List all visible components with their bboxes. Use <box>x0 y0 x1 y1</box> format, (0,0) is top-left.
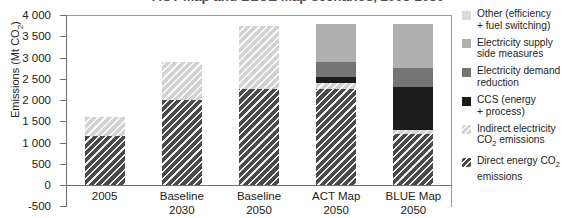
bar-segment-direct <box>393 134 433 185</box>
bar-segment-supply <box>316 24 356 62</box>
legend-swatch-icon <box>462 158 471 167</box>
bar-segment-indirect <box>85 117 125 136</box>
y-axis-tick-label: 1 500 <box>5 115 51 127</box>
x-axis-label-line: ACT Map <box>293 190 379 204</box>
y-axis-tick-label: -500 <box>5 200 51 212</box>
bar-segment-indirect <box>162 62 202 100</box>
y-axis-tick-label: 3 500 <box>5 30 51 42</box>
legend-label: Indirect electricityCO2 emissions <box>477 123 556 150</box>
bar-segment-ccs <box>316 77 356 83</box>
chart-title: ACT Map and BLUE Map scenarios, 2005-205… <box>148 0 448 4</box>
legend-item[interactable]: Direct energy CO2emissions <box>462 155 569 182</box>
legend-label: Direct energy CO2emissions <box>477 155 560 182</box>
y-axis-tick: 1 000 <box>60 143 66 144</box>
legend-item[interactable]: Other (efficiency+ fuel switching) <box>462 8 569 31</box>
x-axis-label-line: 2030 <box>139 204 225 218</box>
bar-segment-indirect <box>393 130 433 134</box>
legend-label: Electricity supplyside measures <box>477 37 553 60</box>
x-axis-label-line: 2050 <box>293 204 379 218</box>
x-axis-label: ACT Map2050 <box>293 190 379 217</box>
legend-label: Other (efficiency+ fuel switching) <box>477 8 551 31</box>
y-axis-tick: 0 <box>60 185 66 186</box>
y-axis-tick-label: 500 <box>5 158 51 170</box>
bar-stack <box>316 15 356 185</box>
legend-item[interactable]: Electricity demandreduction <box>462 65 569 88</box>
legend-label: Electricity demandreduction <box>477 65 560 88</box>
y-axis-tick-label: 1 000 <box>5 137 51 149</box>
bar-segment-demand <box>393 68 433 87</box>
y-axis-tick: 500 <box>60 164 66 165</box>
y-axis-tick: 3 500 <box>60 36 66 37</box>
y-axis-tick-label: 2 500 <box>5 73 51 85</box>
legend-swatch-icon <box>462 125 471 134</box>
legend-item[interactable]: CCS (energy+ process) <box>462 94 569 117</box>
bar-segment-direct <box>316 89 356 185</box>
bar-segment-ccs <box>393 87 433 130</box>
y-axis-tick-label: 3 000 <box>5 52 51 64</box>
bar-segment-direct <box>239 89 279 185</box>
legend-swatch-icon <box>462 11 471 20</box>
x-axis-label-line: Baseline <box>139 190 225 204</box>
x-axis-label: Baseline2050 <box>216 190 302 217</box>
bar-segment-direct <box>162 100 202 185</box>
bar-segment-direct <box>85 136 125 185</box>
legend-item[interactable]: Electricity supplyside measures <box>462 37 569 60</box>
x-axis-label: 2005 <box>62 190 148 204</box>
bar-segment-indirect <box>316 83 356 89</box>
chart-legend: Other (efficiency+ fuel switching)Electr… <box>462 8 569 188</box>
x-axis-label-line: 2005 <box>62 190 148 204</box>
bar-segment-indirect <box>239 26 279 90</box>
y-axis-tick-label: 2 000 <box>5 94 51 106</box>
x-axis-label-line: BLUE Map <box>370 190 456 204</box>
bar-stack <box>162 15 202 185</box>
y-axis-tick: 2 500 <box>60 79 66 80</box>
legend-item[interactable]: Indirect electricityCO2 emissions <box>462 123 569 150</box>
legend-swatch-icon <box>462 39 471 48</box>
y-axis-tick: -500 <box>60 206 66 207</box>
bar-stack <box>393 15 433 185</box>
x-axis-label-line: 2050 <box>370 204 456 218</box>
x-axis-label: BLUE Map2050 <box>370 190 456 217</box>
legend-label: CCS (energy+ process) <box>477 94 536 117</box>
y-axis-tick-label: 4 000 <box>5 9 51 21</box>
y-axis-tick-label: 0 <box>5 179 51 191</box>
y-axis-tick: 3 000 <box>60 58 66 59</box>
x-axis-label: Baseline2030 <box>139 190 225 217</box>
legend-swatch-icon <box>462 97 471 106</box>
plot-area: 4 0003 5003 0002 5002 0001 5001 0005000-… <box>66 15 452 207</box>
bar-segment-demand <box>316 62 356 77</box>
x-axis-label-line: Baseline <box>216 190 302 204</box>
bar-stack <box>239 15 279 185</box>
bar-stack <box>85 15 125 185</box>
y-axis-tick: 2 000 <box>60 100 66 101</box>
x-axis-line <box>66 185 452 186</box>
bar-segment-supply <box>393 24 433 69</box>
y-axis-tick: 4 000 <box>60 15 66 16</box>
y-axis-tick: 1 500 <box>60 121 66 122</box>
chart-figure: ACT Map and BLUE Map scenarios, 2005-205… <box>0 0 569 218</box>
y-axis-line <box>66 15 67 207</box>
x-axis-label-line: 2050 <box>216 204 302 218</box>
legend-swatch-icon <box>462 68 471 77</box>
plot-frame-right <box>451 15 452 207</box>
